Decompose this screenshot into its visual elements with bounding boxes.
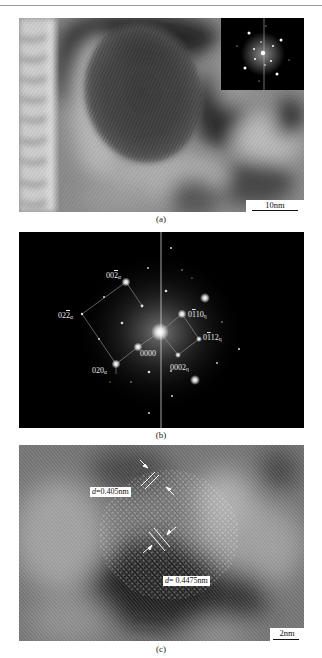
caption-c: (c) [0, 644, 322, 654]
panel-c-lattice-image: d=0.405nm d= 0.4475nm 2nm [19, 445, 304, 641]
scale-bar-c: 2nm [270, 628, 304, 641]
spot-label-002-alpha: 002α [106, 271, 121, 282]
scale-bar-a-label: 10nm [246, 200, 304, 210]
spot-label-022-alpha: 022α [58, 311, 73, 322]
scale-bar-a-line [252, 210, 298, 211]
scale-bar-c-label: 2nm [270, 628, 304, 638]
spot-label-0112-eta: 0112η [203, 333, 222, 344]
scale-bar-c-line [273, 639, 299, 640]
d-spacing-label-2: d= 0.4475nm [163, 576, 210, 586]
spot-label-0002-eta: 0002η [170, 363, 189, 374]
spot-label-020-alpha: 020α [92, 366, 107, 377]
fft-inset [221, 18, 304, 90]
page-top-rule [0, 5, 322, 6]
scale-bar-a: 10nm [246, 200, 304, 212]
panel-a-hrtem-image: 10nm [19, 18, 304, 212]
caption-b: (b) [0, 430, 322, 440]
spot-label-0000: 0000 [140, 349, 156, 358]
caption-a: (a) [0, 214, 322, 224]
panel-b-fft-pattern: 002α 022α 020α 0000 0110η 0112η 0002η [19, 232, 304, 428]
spot-label-0110-eta: 0110η [188, 310, 207, 321]
d-spacing-label-1: d=0.405nm [90, 487, 131, 497]
